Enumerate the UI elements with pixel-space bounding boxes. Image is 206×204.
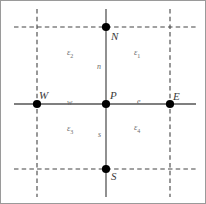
- node-P: [102, 100, 110, 108]
- face-label-e: e: [137, 98, 141, 106]
- node-label-W: W: [39, 90, 48, 101]
- diagram-canvas: [1, 1, 206, 204]
- eps3-subscript: 3: [70, 129, 73, 135]
- stencil-figure: N S W E P w e n s ε2 ε1 ε3 ε4: [0, 0, 206, 204]
- eps2-subscript: 2: [70, 53, 73, 59]
- region-label-eps1: ε1: [134, 48, 140, 59]
- node-label-E: E: [173, 91, 180, 102]
- region-label-eps3: ε3: [67, 124, 73, 135]
- node-label-P: P: [110, 90, 117, 101]
- face-label-n: n: [97, 63, 101, 71]
- face-label-s: s: [98, 131, 101, 139]
- eps1-subscript: 1: [137, 53, 140, 59]
- node-S: [102, 165, 110, 173]
- node-N: [102, 23, 110, 31]
- node-label-N: N: [111, 31, 118, 42]
- node-label-S: S: [111, 171, 117, 182]
- region-label-eps2: ε2: [67, 48, 73, 59]
- node-W: [33, 100, 41, 108]
- face-label-w: w: [67, 99, 72, 107]
- eps4-subscript: 4: [137, 128, 140, 134]
- region-label-eps4: ε4: [134, 123, 140, 134]
